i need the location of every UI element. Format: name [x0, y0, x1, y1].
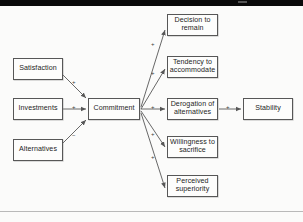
node-derogation-of-alternatives[interactable]: Derogation of alternatives: [167, 98, 218, 120]
node-derogation-of-alternatives-label: Derogation of alternatives: [168, 101, 217, 117]
node-alternatives[interactable]: Alternatives: [13, 139, 63, 161]
node-stability[interactable]: Stability: [243, 98, 293, 120]
node-stability-label: Stability: [253, 105, 283, 113]
edge-commitment-perceived: [141, 113, 165, 188]
scan-artifact-speck: [238, 1, 247, 3]
page-divider-rule: [0, 211, 303, 212]
edge-commitment-willingness: [141, 111, 165, 147]
edge-sign-decision: +: [151, 41, 155, 47]
node-tendency-to-accommodate-label: Tendency to accommodate: [168, 59, 217, 75]
edge-sign-perceived: +: [151, 154, 155, 160]
edge-sign-satisfaction: +: [72, 79, 76, 85]
node-decision-to-remain-label: Decision to remain: [168, 17, 217, 33]
edge-sign-stability: +: [226, 104, 230, 110]
node-perceived-superiority[interactable]: Perceived superiority: [167, 175, 218, 197]
node-commitment[interactable]: Commitment: [88, 98, 140, 120]
scanned-page: Satisfaction Investments Alternatives Co…: [0, 0, 303, 222]
edge-sign-investments: +: [72, 104, 76, 110]
edge-sign-willingness: +: [151, 131, 155, 137]
edge-sign-alternatives: −: [72, 132, 76, 138]
node-satisfaction[interactable]: Satisfaction: [13, 58, 63, 80]
node-investments-label: Investments: [16, 105, 59, 113]
edge-sign-tendency: +: [151, 70, 155, 76]
node-willingness-to-sacrifice-label: Willingness to sacrifice: [168, 139, 217, 155]
node-perceived-superiority-label: Perceived superiority: [168, 178, 217, 194]
edge-sign-derogation: +: [151, 104, 155, 110]
node-willingness-to-sacrifice[interactable]: Willingness to sacrifice: [167, 136, 218, 158]
node-satisfaction-label: Satisfaction: [17, 65, 59, 73]
node-investments[interactable]: Investments: [13, 98, 63, 120]
node-commitment-label: Commitment: [91, 105, 136, 113]
node-alternatives-label: Alternatives: [17, 146, 59, 154]
node-tendency-to-accommodate[interactable]: Tendency to accommodate: [167, 56, 218, 78]
node-decision-to-remain[interactable]: Decision to remain: [167, 14, 218, 36]
investment-model-diagram: Satisfaction Investments Alternatives Co…: [0, 6, 303, 211]
